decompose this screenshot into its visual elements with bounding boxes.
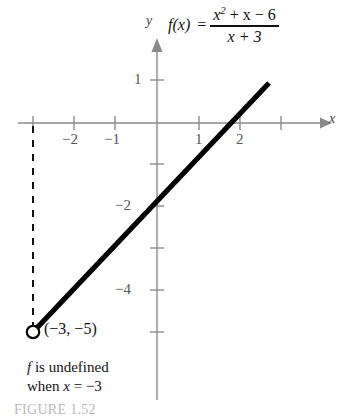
x-axis (18, 118, 332, 129)
note-line1-text: is undefined (31, 359, 108, 375)
undefined-note-line1: f is undefined (27, 358, 109, 377)
figure-container: f(x) = x2 + x − 6 x + 3 y x −2 −1 1 2 1 … (0, 0, 340, 417)
formula-equals: = (197, 16, 206, 34)
y-axis-label: y (146, 13, 152, 29)
undefined-note: f is undefined when x = −3 (27, 358, 109, 396)
numerator-remainder: + x − 6 (230, 6, 276, 23)
open-point-marker (27, 326, 39, 338)
x-tick-label-1: 1 (195, 131, 203, 148)
function-line (34, 83, 269, 331)
undefined-note-line2: when x = −3 (27, 377, 109, 396)
formula-function-name: f(x) (168, 16, 190, 34)
numerator-exponent: 2 (220, 4, 225, 16)
figure-caption: FIGURE 1.52 (14, 402, 96, 417)
note-line2-text: = −3 (70, 378, 102, 394)
y-tick-label-1: 1 (134, 71, 142, 88)
x-tick-label-neg1: −1 (104, 131, 120, 148)
y-tick-label-neg4: −4 (115, 281, 131, 298)
function-formula: f(x) = x2 + x − 6 x + 3 (168, 4, 279, 45)
x-tick-label-neg2: −2 (62, 131, 78, 148)
formula-numerator: x2 + x − 6 (210, 4, 279, 25)
y-axis (152, 38, 163, 400)
open-point-label: (−3, −5) (44, 320, 97, 338)
x-tick-label-2: 2 (236, 131, 244, 148)
formula-fraction: x2 + x − 6 x + 3 (210, 4, 279, 45)
graph-canvas (0, 0, 340, 417)
formula-denominator: x + 3 (225, 27, 265, 46)
note-variable-symbol: x (63, 378, 70, 394)
note-line2-pre: when (27, 378, 63, 394)
y-tick-label-neg2: −2 (115, 197, 131, 214)
x-axis-label: x (329, 111, 335, 127)
